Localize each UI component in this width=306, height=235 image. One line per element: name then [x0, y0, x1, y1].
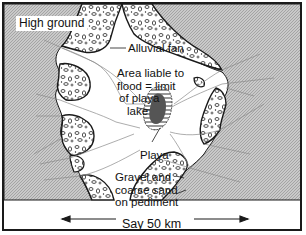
label-flood-line1: Area liable to — [117, 67, 184, 80]
label-gravel-line2: coarse sand — [115, 184, 178, 197]
label-gravel-line1: Gravel and — [115, 171, 178, 184]
label-alluvial-fan: Alluvial fan — [128, 42, 184, 55]
label-flood-area: Area liable to flood = limit of playa la… — [117, 67, 184, 117]
label-scale: Say 50 km — [122, 218, 181, 231]
label-gravel-line3: on pediment — [115, 196, 178, 209]
label-playa: Playa — [140, 149, 169, 162]
alluvial-fan-left-upper — [57, 64, 90, 101]
label-high-ground: High ground — [16, 16, 87, 31]
alluvial-fan-left-mid — [61, 115, 94, 156]
label-flood-line2: flood = limit — [117, 80, 184, 93]
label-flood-line3: of playa — [117, 92, 184, 105]
label-gravel: Gravel and coarse sand on pediment — [115, 171, 178, 209]
diagram-frame: High ground Alluvial fan Area liable to … — [2, 2, 302, 231]
label-flood-line4: lake — [117, 105, 184, 118]
